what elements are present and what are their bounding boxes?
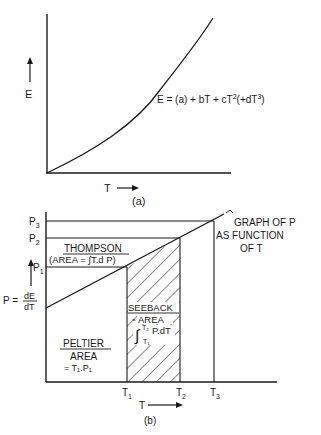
caption-a: (a) [132,195,145,207]
svg-text:OF T: OF T [240,243,263,254]
p3-label: P3 [29,216,40,229]
p-definition: P = dE dT [3,291,37,312]
graph-annotation: GRAPH OF P AS FUNCTION OF T [216,217,296,254]
svg-text:AS FUNCTION: AS FUNCTION [216,230,284,241]
t2-label: T2 [176,387,186,400]
p1-label: P1 [33,262,44,275]
svg-text:(AREA = ∫T.d P): (AREA = ∫T.d P) [49,254,116,265]
p2-label: P2 [29,233,40,246]
svg-text:P.dT: P.dT [152,325,171,336]
svg-text:=: = [132,317,136,323]
svg-text:AREA: AREA [70,351,98,362]
figure-b: P3 P2 P1 P = dE dT THOMPSON (AREA = ∫T.d… [3,210,296,426]
caption-b: (b) [144,415,156,426]
svg-text:T₂: T₂ [142,324,149,331]
thompson-label: THOMPSON (AREA = ∫T.d P) [49,243,129,265]
annotation-leader [226,210,233,213]
x-label-b: T [139,400,145,411]
right-arrow-icon [148,402,183,408]
right-arrow-icon [117,185,139,191]
svg-text:dE: dE [24,291,35,301]
diagram-canvas: E E = (a) + bT + cT2(+dT3) T (a) P3 P [0,0,321,435]
svg-text:= T₁.P₁: = T₁.P₁ [64,363,92,373]
figure-a: E E = (a) + bT + cT2(+dT3) T (a) [25,14,265,207]
svg-text:P =: P = [3,295,18,306]
equation-label: E = (a) + bT + cT2(+dT3) [157,93,265,105]
svg-text:T₁: T₁ [143,338,150,345]
svg-text:dT: dT [24,302,35,312]
svg-text:PELTIER: PELTIER [63,338,104,349]
svg-text:GRAPH OF P: GRAPH OF P [234,217,296,228]
svg-text:THOMPSON: THOMPSON [64,243,122,254]
peltier-label: PELTIER AREA = T₁.P₁ [60,338,111,373]
t3-label: T3 [210,387,220,400]
up-arrow-icon [27,57,33,82]
svg-text:SEEBACK: SEEBACK [128,302,174,313]
y-label-a: E [25,88,32,100]
t1-label: T1 [122,387,132,400]
x-label-a: T [104,182,111,194]
